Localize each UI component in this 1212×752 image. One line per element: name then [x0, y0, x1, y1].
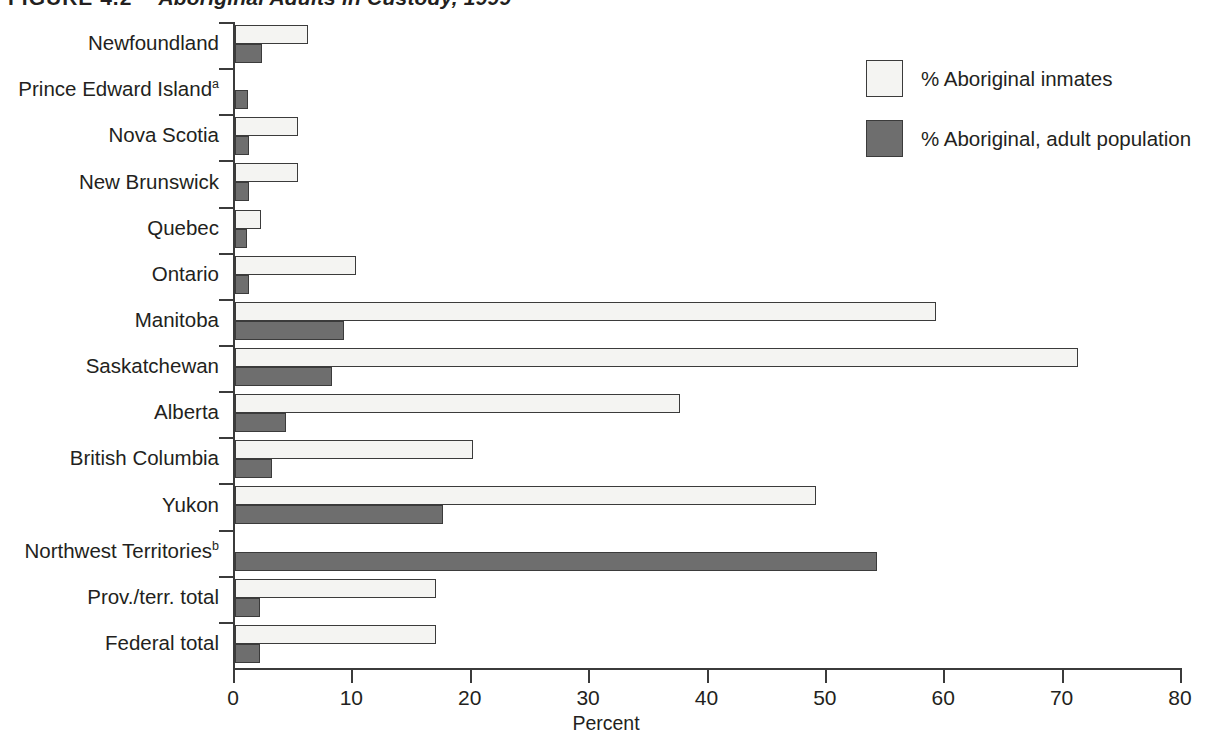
bar-row — [233, 253, 1180, 299]
bar-population — [235, 182, 249, 201]
y-axis-label: Ontario — [0, 262, 219, 286]
bar-rows — [233, 22, 1180, 668]
y-axis-label: Federal total — [0, 631, 219, 655]
x-axis-tick — [1062, 668, 1064, 683]
x-axis-tick — [943, 668, 945, 683]
bar-inmates — [235, 625, 436, 644]
legend-item-population: % Aboriginal, adult population — [866, 120, 1191, 157]
y-axis-label: Alberta — [0, 400, 219, 424]
y-axis-tick — [219, 160, 233, 162]
y-axis-tick — [219, 391, 233, 393]
bar-population — [235, 321, 344, 340]
bar-population — [235, 90, 248, 109]
dark-swatch-icon — [866, 120, 903, 157]
bar-row — [233, 345, 1180, 391]
y-axis-label: Manitoba — [0, 308, 219, 332]
bar-population — [235, 229, 247, 248]
bar-population — [235, 644, 260, 663]
figure-title: FIGURE 4.2Aboriginal Adults in Custody, … — [8, 0, 511, 10]
x-axis-tick-label: 70 — [1032, 686, 1092, 710]
bar-population — [235, 598, 260, 617]
bar-population — [235, 136, 249, 155]
y-axis-tick — [219, 483, 233, 485]
x-axis-tick — [825, 668, 827, 683]
figure-container: FIGURE 4.2Aboriginal Adults in Custody, … — [0, 0, 1212, 752]
x-axis-title: Percent — [0, 712, 1212, 735]
y-axis-tick — [219, 576, 233, 578]
y-axis-label: Quebec — [0, 216, 219, 240]
bar-population — [235, 275, 249, 294]
x-axis-tick-label: 10 — [321, 686, 381, 710]
bar-inmates — [235, 117, 298, 136]
x-axis-tick — [707, 668, 709, 683]
legend-label-population: % Aboriginal, adult population — [921, 127, 1191, 151]
x-axis-tick-label: 50 — [795, 686, 855, 710]
x-axis-tick — [351, 668, 353, 683]
y-axis-tick — [219, 253, 233, 255]
y-axis-tick — [219, 345, 233, 347]
bar-inmates — [235, 302, 936, 321]
bar-inmates — [235, 256, 356, 275]
bar-inmates — [235, 440, 473, 459]
bar-inmates — [235, 394, 680, 413]
x-axis-tick-label: 0 — [203, 686, 263, 710]
bar-inmates — [235, 163, 298, 182]
bar-inmates — [235, 486, 816, 505]
y-axis-label: New Brunswick — [0, 170, 219, 194]
bar-row — [233, 622, 1180, 668]
legend-label-inmates: % Aboriginal inmates — [921, 67, 1112, 91]
bar-inmates — [235, 210, 261, 229]
y-axis-tick — [219, 299, 233, 301]
bar-population — [235, 44, 262, 63]
y-axis-tick — [219, 622, 233, 624]
bar-row — [233, 530, 1180, 576]
figure-number: FIGURE 4.2 — [8, 0, 132, 9]
y-axis-tick — [219, 437, 233, 439]
figure-title-text: Aboriginal Adults in Custody, 1999 — [158, 0, 511, 9]
y-axis-label: Yukon — [0, 493, 219, 517]
bar-row — [233, 576, 1180, 622]
footnote-marker: a — [212, 77, 219, 91]
y-axis-label: Saskatchewan — [0, 354, 219, 378]
bar-population — [235, 552, 877, 571]
y-axis-tick — [219, 22, 233, 24]
x-axis-tick — [233, 668, 235, 683]
x-axis-tick — [470, 668, 472, 683]
light-swatch-icon — [866, 60, 903, 97]
bar-population — [235, 459, 272, 478]
bar-inmates — [235, 348, 1078, 367]
y-axis-tick — [219, 114, 233, 116]
bar-inmates — [235, 25, 308, 44]
y-axis-label: British Columbia — [0, 446, 219, 470]
bar-row — [233, 483, 1180, 529]
y-axis-tick — [219, 68, 233, 70]
y-axis-label: Prince Edward Islanda — [0, 77, 219, 101]
x-axis-tick — [1180, 668, 1182, 683]
bar-row — [233, 299, 1180, 345]
x-axis-tick-label: 60 — [913, 686, 973, 710]
x-axis-tick-label: 40 — [677, 686, 737, 710]
bar-population — [235, 367, 332, 386]
y-axis-label: Northwest Territoriesb — [0, 539, 219, 563]
plot-area — [233, 22, 1180, 668]
y-axis-label: Newfoundland — [0, 31, 219, 55]
y-axis-label: Nova Scotia — [0, 123, 219, 147]
y-axis-label: Prov./terr. total — [0, 585, 219, 609]
x-axis-tick-label: 80 — [1150, 686, 1210, 710]
bar-population — [235, 505, 443, 524]
x-axis-tick-label: 30 — [558, 686, 618, 710]
y-axis-tick — [219, 530, 233, 532]
y-axis-labels: NewfoundlandPrince Edward IslandaNova Sc… — [0, 22, 219, 668]
footnote-marker: b — [212, 539, 219, 553]
x-axis-tick-label: 20 — [440, 686, 500, 710]
bar-population — [235, 413, 286, 432]
bar-inmates — [235, 579, 436, 598]
bar-row — [233, 437, 1180, 483]
x-axis-tick — [588, 668, 590, 683]
bar-row — [233, 207, 1180, 253]
bar-row — [233, 391, 1180, 437]
y-axis-tick — [219, 207, 233, 209]
legend-item-inmates: % Aboriginal inmates — [866, 60, 1112, 97]
bar-row — [233, 160, 1180, 206]
